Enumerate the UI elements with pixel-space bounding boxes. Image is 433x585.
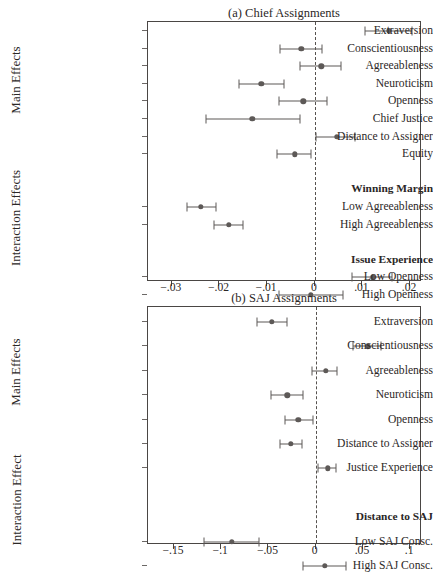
point-estimate-marker [198, 204, 203, 209]
x-axis-tick-label: −.1 [213, 544, 228, 557]
ci-cap-upper [287, 318, 288, 327]
y-axis-tick [142, 394, 147, 395]
row-label: Agreeableness [295, 60, 433, 71]
row-label: Extraversion [295, 25, 433, 36]
y-axis-tick [142, 345, 147, 346]
y-axis-tick [142, 419, 147, 420]
y-axis-tick [142, 118, 147, 119]
y-axis-tick [142, 541, 147, 542]
row-label: Extraversion [295, 316, 433, 327]
x-axis-tick-label: .1 [405, 544, 414, 557]
ci-cap-lower [205, 115, 206, 124]
panel-title-saj: (b) SAJ Assignments [147, 291, 421, 306]
y-axis-tick [142, 30, 147, 31]
row-label: Distance to Assigner [295, 438, 433, 449]
row-label: Neuroticism [295, 77, 433, 88]
x-axis-tick-label: −.05 [257, 544, 278, 557]
ci-cap-upper [216, 203, 217, 212]
x-axis-tick-label: 0 [312, 544, 318, 557]
ci-cap-lower [280, 44, 281, 53]
point-estimate-marker [229, 539, 234, 544]
group-label-chief-1: Interaction Effects [8, 148, 24, 288]
y-axis-tick [142, 136, 147, 137]
row-label: Conscientiousness [295, 42, 433, 53]
row-label: Low Agreeableness [295, 201, 433, 212]
y-axis-tick [142, 65, 147, 66]
ci-cap-lower [284, 415, 285, 424]
row-group-header: Distance to SAJ [295, 511, 433, 522]
y-axis-tick [142, 83, 147, 84]
y-axis-tick [142, 100, 147, 101]
group-label-saj-1: Interaction Effect [8, 433, 24, 568]
point-estimate-marker [285, 392, 290, 397]
row-label: High Agreeableness [295, 218, 433, 229]
row-label: Conscientiousness [295, 340, 433, 351]
row-label: Equity [295, 148, 433, 159]
point-estimate-marker [259, 81, 264, 86]
ci-cap-lower [214, 220, 215, 229]
ci-cap-upper [242, 220, 243, 229]
ci-cap-lower [271, 391, 272, 400]
point-estimate-marker [250, 116, 255, 121]
group-label-chief-0: Main Effects [8, 25, 24, 135]
y-axis-tick [142, 224, 147, 225]
ci-cap-lower [276, 150, 277, 159]
ci-cap-lower [280, 440, 281, 449]
y-axis-tick [142, 276, 147, 277]
group-label-saj-0: Main Effects [8, 317, 24, 427]
row-label: Openness [295, 413, 433, 424]
point-estimate-marker [288, 441, 293, 446]
ci-cap-lower [186, 203, 187, 212]
point-estimate-marker [269, 319, 274, 324]
row-label: Neuroticism [295, 389, 433, 400]
panel-title-chief: (a) Chief Assignments [147, 6, 421, 21]
figure-root: (a) Chief AssignmentsMain EffectsInterac… [0, 0, 433, 585]
y-axis-tick [142, 153, 147, 154]
y-axis-tick [142, 370, 147, 371]
x-axis-tick-label: −.15 [162, 544, 183, 557]
row-label: Agreeableness [295, 364, 433, 375]
ci-cap-lower [239, 79, 240, 88]
row-label: High SAJ Consc. [295, 560, 433, 571]
row-label: Justice Experience [295, 462, 433, 473]
row-label: Openness [295, 95, 433, 106]
ci-cap-lower [278, 97, 279, 106]
ci-cap-lower [203, 537, 204, 546]
y-axis-tick [142, 443, 147, 444]
y-axis-tick [142, 565, 147, 566]
y-axis-tick [142, 206, 147, 207]
row-label: Distance to Assigner [295, 130, 433, 141]
ci-cap-upper [284, 79, 285, 88]
y-axis-tick [142, 321, 147, 322]
row-group-header: Winning Margin [295, 183, 433, 194]
row-group-header: Issue Experience [295, 253, 433, 264]
y-axis-tick [142, 467, 147, 468]
ci-cap-lower [257, 318, 258, 327]
point-estimate-marker [226, 222, 231, 227]
x-axis-tick-label: .05 [355, 544, 370, 557]
row-label: Chief Justice [295, 113, 433, 124]
y-axis-tick [142, 48, 147, 49]
